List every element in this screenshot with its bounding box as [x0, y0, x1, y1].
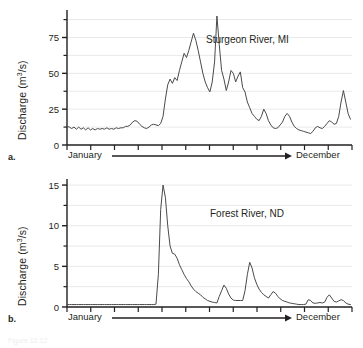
figure-hydrographs: Discharge (m3/s) 0255075 Sturgeon River,…	[0, 0, 363, 348]
x-axis-start-label-b: January	[68, 311, 102, 322]
y-tick-label: 10	[48, 220, 59, 231]
y-tick-label: 0	[54, 302, 59, 313]
panel-letter-a: a.	[8, 152, 16, 162]
y-tick-label: 5	[54, 261, 59, 272]
chart-panel-b: 051015	[0, 174, 363, 334]
x-axis-end-label-b: December	[296, 311, 340, 322]
time-arrow-head	[285, 153, 292, 160]
panel-b-forest-river: Discharge (m3/s) 051015 Forest River, ND…	[0, 174, 363, 334]
figure-caption: Figure 12.12	[8, 337, 47, 344]
series-title-panel-b: Forest River, ND	[210, 208, 284, 219]
y-tick-label: 50	[48, 68, 59, 79]
y-tick-label: 25	[48, 104, 59, 115]
panel-letter-b: b.	[8, 314, 16, 324]
x-axis-end-label-a: December	[296, 149, 340, 160]
time-arrow-head	[285, 315, 292, 322]
y-tick-label: 15	[48, 180, 59, 191]
y-tick-label: 0	[54, 140, 59, 151]
y-tick-label: 75	[48, 32, 59, 43]
panel-a-sturgeon-river: Discharge (m3/s) 0255075 Sturgeon River,…	[0, 0, 363, 176]
series-title-panel-a: Sturgeon River, MI	[206, 34, 289, 45]
x-axis-start-label-a: January	[68, 149, 102, 160]
